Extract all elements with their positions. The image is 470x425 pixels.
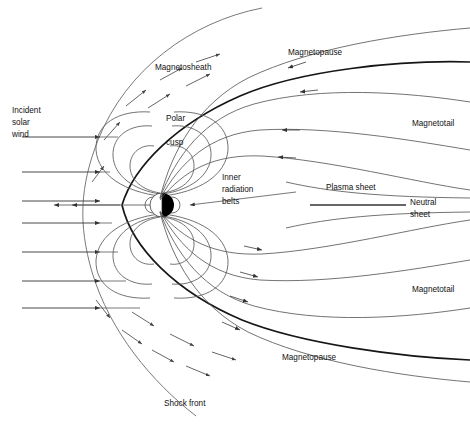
label-neutral-sheet-line2: sheet [410,210,431,219]
label-magnetopause-bottom: Magnetopause [282,353,337,362]
label-magnetopause-top: Magnetopause [288,48,343,57]
magnetosphere-diagram: Incident solar wind Magnetosheath Magnet… [0,0,470,425]
label-inner-belts-line3: belts [222,197,239,206]
label-neutral-sheet-line1: Neutral [410,198,437,207]
label-polar-cusp-line1: Polar [166,114,185,123]
earth [150,193,174,217]
label-incident-solar-wind-line2: solar [12,118,30,127]
label-inner-belts-line2: radiation [222,185,254,194]
label-incident-solar-wind-line3: wind [11,130,29,139]
diagram-canvas: Incident solar wind Magnetosheath Magnet… [0,0,470,425]
label-magnetosheath: Magnetosheath [155,63,212,72]
label-polar-cusp-line2: cusp [166,138,184,147]
label-magnetotail-bottom: Magnetotail [412,285,455,294]
label-plasma-sheet: Plasma sheet [326,183,376,192]
label-incident-solar-wind-line1: Incident [12,106,41,115]
label-shock-front: Shock front [164,399,206,408]
label-inner-belts-line1: Inner [222,173,241,182]
label-magnetotail-top: Magnetotail [412,119,455,128]
